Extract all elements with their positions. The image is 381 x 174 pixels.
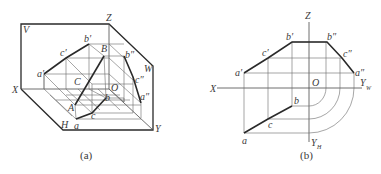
label-A: A	[67, 102, 75, 113]
label-c-dprime: c″	[343, 48, 352, 59]
label-origin-O: O	[312, 77, 319, 88]
label-b: b	[294, 95, 299, 106]
label-plane-H: H	[60, 119, 69, 130]
label-b-dprime: b″	[125, 49, 135, 60]
label-a: a	[74, 120, 79, 131]
figure-b-orthographic: Z X O Y W Y H a′ c′ b′ b″ c″ a″ b c a (b…	[209, 10, 372, 162]
label-b: b	[105, 92, 110, 103]
label-plane-V: V	[23, 24, 31, 35]
label-b-prime: b′	[84, 33, 92, 44]
svg-text:W: W	[366, 85, 372, 91]
front-and-side-projection-lines	[244, 42, 354, 73]
label-axis-X: X	[11, 84, 19, 95]
line-projections-b	[244, 42, 354, 133]
label-B: B	[101, 43, 107, 54]
label-c: c	[91, 110, 96, 121]
label-a-dprime: a″	[140, 91, 150, 102]
label-axis-Z: Z	[106, 12, 112, 23]
label-C: C	[74, 76, 81, 87]
label-b-dprime: b″	[327, 31, 337, 42]
label-axis-Z: Z	[305, 10, 311, 21]
label-b-prime: b′	[286, 31, 294, 42]
label-c-prime: c′	[262, 47, 269, 58]
label-c-prime: c′	[60, 47, 67, 58]
caption-a: (a)	[80, 149, 93, 162]
label-axis-X: X	[209, 83, 217, 94]
label-c-dprime: c″	[135, 74, 144, 85]
label-origin-O: O	[111, 82, 118, 93]
projection-diagram: V Z X O W Y H a′ c′ b′ B b″ c″ a″ C A b …	[0, 0, 381, 174]
label-axis-YW: Y W	[360, 77, 372, 91]
label-a-prime: a′	[235, 67, 243, 78]
label-axis-Y: Y	[155, 123, 162, 134]
projection-lines	[244, 42, 354, 133]
label-a: a	[242, 135, 247, 146]
label-a-prime: a′	[37, 68, 45, 79]
svg-text:H: H	[316, 144, 322, 150]
label-c: c	[268, 119, 273, 130]
figure-a-pictorial: V Z X O W Y H a′ c′ b′ B b″ c″ a″ C A b …	[11, 12, 162, 162]
caption-b: (b)	[300, 149, 313, 162]
label-a-dprime: a″	[355, 67, 365, 78]
